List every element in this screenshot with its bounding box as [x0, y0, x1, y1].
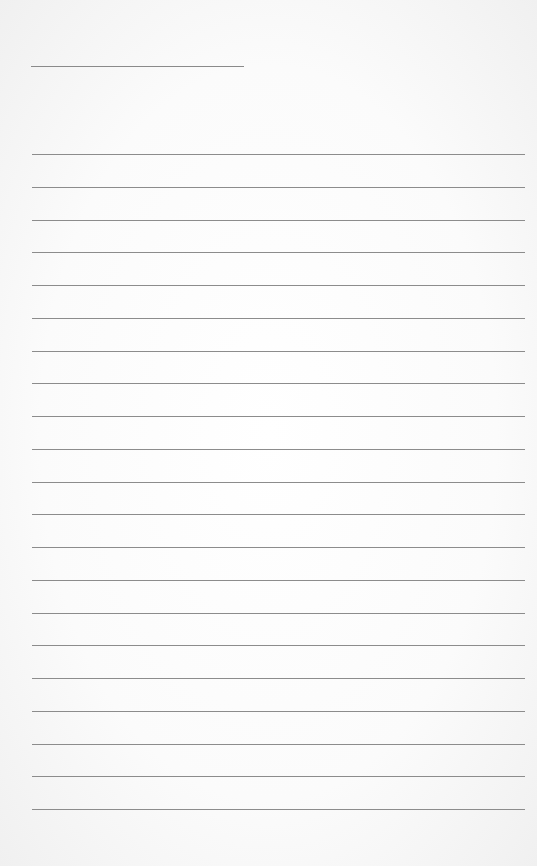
ruled-line — [32, 776, 525, 777]
ruled-line — [32, 449, 525, 450]
ruled-line — [32, 645, 525, 646]
ruled-line — [32, 154, 525, 155]
ruled-line — [32, 318, 525, 319]
ruled-line — [32, 580, 525, 581]
ruled-line — [32, 252, 525, 253]
ruled-line — [32, 678, 525, 679]
lined-paper-page — [0, 0, 537, 866]
ruled-line — [32, 547, 525, 548]
ruled-line — [32, 187, 525, 188]
ruled-line — [32, 383, 525, 384]
ruled-line — [32, 711, 525, 712]
ruled-line — [32, 744, 525, 745]
ruled-line — [32, 351, 525, 352]
ruled-line — [32, 482, 525, 483]
ruled-line — [32, 613, 525, 614]
ruled-lines-container — [0, 0, 537, 866]
ruled-line — [32, 809, 525, 810]
ruled-line — [32, 220, 525, 221]
ruled-line — [32, 285, 525, 286]
ruled-line — [32, 514, 525, 515]
ruled-line — [32, 416, 525, 417]
